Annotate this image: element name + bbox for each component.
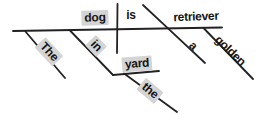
- word-verb[interactable]: is: [123, 8, 138, 23]
- sentence-diagram: The dog in yard the is a golden retrieve…: [0, 0, 266, 115]
- word-subject[interactable]: dog: [81, 10, 109, 26]
- subject-verb-divider: [117, 4, 118, 53]
- word-prep-object[interactable]: yard: [121, 55, 152, 72]
- word-predicate-nominative[interactable]: retriever: [170, 9, 222, 26]
- prep-object-line: [113, 71, 159, 75]
- predicate-divider-line: [143, 5, 168, 28]
